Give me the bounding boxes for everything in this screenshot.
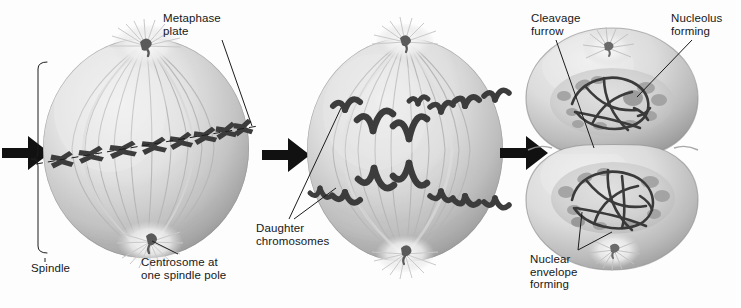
label-nuclear-envelope-forming: Nuclear envelope forming (530, 253, 577, 291)
label-metaphase-plate: Metaphase plate (163, 12, 221, 37)
label-centrosome: Centrosome at one spindle pole (141, 256, 226, 281)
label-nucleolus-forming: Nucleolus forming (671, 12, 722, 37)
label-spindle: Spindle (31, 262, 70, 275)
mitosis-diagram (0, 0, 741, 308)
label-daughter-chromosomes: Daughter chromosomes (256, 222, 329, 247)
label-cleavage-furrow: Cleavage furrow (531, 12, 580, 37)
